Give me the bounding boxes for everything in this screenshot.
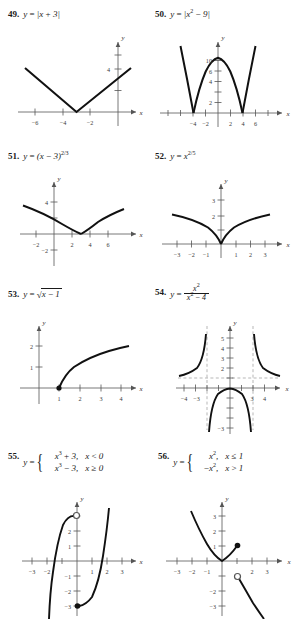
problem-52-expression: y = x2/5 xyxy=(170,150,195,161)
graph-54: −4 −3 3 4 2 3 4 5 −3 x y xyxy=(156,312,296,440)
svg-text:y: y xyxy=(41,319,46,327)
svg-text:−2: −2 xyxy=(64,588,71,595)
svg-text:x: x xyxy=(285,110,290,118)
svg-text:x: x xyxy=(284,385,289,393)
branch-right xyxy=(254,334,280,376)
svg-text:−3: −3 xyxy=(174,568,181,575)
problem-50: 50. y = |x2 − 9| xyxy=(155,8,210,26)
svg-text:4: 4 xyxy=(107,66,110,73)
svg-text:4: 4 xyxy=(209,78,212,85)
problem-50-number: 50. xyxy=(155,8,166,19)
branch-left xyxy=(179,334,206,376)
problem-55: 55. y ={x3 + 3,x < 0x3 − 3,x ≥ 0 xyxy=(8,450,115,474)
graph-55: −3 −2 1 2 3 2 1 −1 −2 −3 x y xyxy=(14,492,146,619)
problem-51-number: 51. xyxy=(8,150,19,161)
piecewise-55: x3 + 3,x < 0x3 − 3,x ≥ 0 xyxy=(44,450,115,474)
svg-text:x: x xyxy=(138,109,143,117)
svg-text:4: 4 xyxy=(263,395,266,402)
svg-text:−1: −1 xyxy=(203,251,210,258)
svg-text:3: 3 xyxy=(99,395,102,402)
svg-text:−3: −3 xyxy=(64,603,71,610)
svg-text:2: 2 xyxy=(78,395,81,402)
open-point-55 xyxy=(74,513,80,519)
svg-text:−2: −2 xyxy=(33,241,40,248)
problem-53-expression: y = √x − 1 xyxy=(23,288,62,299)
svg-text:3: 3 xyxy=(263,251,266,258)
svg-text:1: 1 xyxy=(68,543,71,550)
svg-text:x: x xyxy=(285,241,290,249)
graph-52: −3 −2 −1 1 2 3 3 2 x y xyxy=(156,172,296,284)
svg-text:1: 1 xyxy=(57,395,60,402)
svg-text:−2: −2 xyxy=(209,588,216,595)
problem-52: 52. y = x2/5 xyxy=(155,150,196,168)
problem-54: 54. y = x2 x2 − 4 xyxy=(155,286,209,304)
textbook-page: 49. y = |x + 3| 50. y = |x2 − 9| xyxy=(0,0,300,619)
svg-text:x: x xyxy=(138,385,143,393)
svg-text:1: 1 xyxy=(234,251,237,258)
svg-text:4: 4 xyxy=(119,395,122,402)
svg-text:3: 3 xyxy=(120,568,123,575)
svg-text:1: 1 xyxy=(213,543,216,550)
svg-text:4: 4 xyxy=(221,345,224,352)
branch-right-55 xyxy=(79,508,109,606)
closed-point-55 xyxy=(75,603,81,609)
graph-50: −4 −2 2 4 6 2 4 6 10 x y xyxy=(156,26,296,140)
problem-56: 56. y ={x2,x ≤ 1−x2,x > 1 xyxy=(158,450,255,474)
svg-text:−4: −4 xyxy=(60,119,67,126)
graph-56: −3 −2 −1 2 3 3 2 1 −2 −3 x y xyxy=(158,492,298,619)
svg-text:1: 1 xyxy=(90,568,93,575)
svg-text:6: 6 xyxy=(209,68,212,75)
svg-text:5: 5 xyxy=(221,335,224,342)
problem-54-expression: y = x2 x2 − 4 xyxy=(170,286,209,304)
svg-text:10: 10 xyxy=(206,57,212,64)
svg-text:−2: −2 xyxy=(87,119,94,126)
problem-53-number: 53. xyxy=(8,288,19,299)
graph-49: −6 −4 −2 4 x y xyxy=(14,26,146,138)
svg-text:6: 6 xyxy=(254,120,257,127)
svg-text:2: 2 xyxy=(249,251,252,258)
svg-text:x: x xyxy=(138,231,143,239)
svg-text:−2: −2 xyxy=(189,568,196,575)
closed-endpoint-53 xyxy=(56,385,61,390)
svg-text:−1: −1 xyxy=(64,573,71,580)
svg-text:3: 3 xyxy=(213,513,216,520)
svg-text:4: 4 xyxy=(88,241,91,248)
svg-text:−3: −3 xyxy=(209,603,216,610)
svg-text:−2: −2 xyxy=(41,247,48,254)
brace-55: { xyxy=(36,454,43,470)
svg-text:−4: −4 xyxy=(181,395,188,402)
graph-51: −2 2 4 6 4 −2 x y xyxy=(14,172,146,284)
svg-text:2: 2 xyxy=(212,213,215,220)
brace-56: { xyxy=(186,454,193,470)
problem-56-number: 56. xyxy=(158,450,169,461)
svg-text:−6: −6 xyxy=(32,119,39,126)
svg-text:2: 2 xyxy=(213,528,216,535)
svg-text:2: 2 xyxy=(68,528,71,535)
problem-53: 53. y = √x − 1 xyxy=(8,288,62,306)
svg-text:−1: −1 xyxy=(204,568,211,575)
svg-text:4: 4 xyxy=(45,199,48,206)
problem-51-expression: y = (x − 3)2/3 xyxy=(23,150,68,161)
svg-text:x: x xyxy=(138,558,143,566)
svg-text:−3: −3 xyxy=(217,425,224,432)
svg-text:y: y xyxy=(220,34,225,42)
problem-55-expression: y ={x3 + 3,x < 0x3 − 3,x ≥ 0 xyxy=(23,450,115,474)
svg-text:x: x xyxy=(286,558,291,566)
svg-text:y: y xyxy=(224,495,229,503)
svg-text:y: y xyxy=(79,495,84,503)
svg-text:−3: −3 xyxy=(29,568,36,575)
svg-text:2: 2 xyxy=(105,568,108,575)
branch-right-56 xyxy=(238,577,264,619)
problem-51: 51. y = (x − 3)2/3 xyxy=(8,150,69,168)
svg-text:3: 3 xyxy=(212,197,215,204)
svg-text:6: 6 xyxy=(106,241,109,248)
problem-54-number: 54. xyxy=(155,286,166,297)
svg-text:2: 2 xyxy=(70,241,73,248)
svg-text:1: 1 xyxy=(30,364,33,371)
svg-text:−3: −3 xyxy=(193,395,200,402)
open-point-56 xyxy=(235,574,241,580)
svg-text:3: 3 xyxy=(221,355,224,362)
svg-text:y: y xyxy=(223,177,228,185)
closed-point-56 xyxy=(235,543,241,549)
problem-50-expression: y = |x2 − 9| xyxy=(170,8,210,19)
